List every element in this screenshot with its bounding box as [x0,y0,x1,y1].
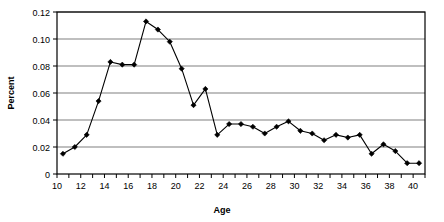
x-tick-label: 36 [361,181,371,191]
x-tick-label: 16 [123,181,133,191]
x-tick-label: 28 [266,181,276,191]
x-tick-label: 24 [218,181,228,191]
y-tick-label: 0.10 [32,35,50,45]
x-tick-label: 40 [408,181,418,191]
y-tick-label: 0.12 [32,8,50,18]
y-tick-label: 0.08 [32,62,50,72]
y-tick-label: 0.04 [32,116,50,126]
x-tick-label: 34 [337,181,347,191]
line-chart: 10121416182022242628303234363840 00.020.… [0,0,444,222]
x-tick-label: 14 [99,181,109,191]
y-tick-label: 0.06 [32,89,50,99]
x-tick-label: 38 [384,181,394,191]
x-tick-label: 30 [289,181,299,191]
x-tick-label: 10 [52,181,62,191]
x-tick-label: 12 [76,181,86,191]
x-tick-label: 26 [242,181,252,191]
chart-container: 10121416182022242628303234363840 00.020.… [0,0,444,222]
x-tick-label: 18 [147,181,157,191]
x-tick-label: 20 [171,181,181,191]
x-tick-label: 22 [194,181,204,191]
y-tick-label: 0 [45,170,50,180]
x-tick-label: 32 [313,181,323,191]
y-tick-label: 0.02 [32,143,50,153]
y-axis-title: Percent [6,76,16,109]
x-axis-title: Age [213,205,230,215]
